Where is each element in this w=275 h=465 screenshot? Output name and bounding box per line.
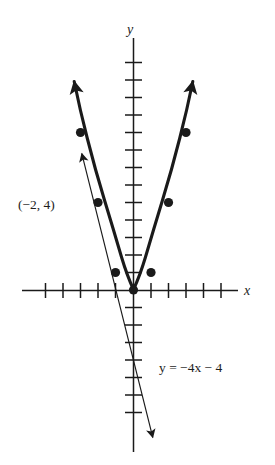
point-label: (−2, 4) [18,197,55,212]
coordinate-graph-svg: y x (−2, 4) y = −4x − 4 [0,0,275,465]
data-point [146,268,155,277]
line-equation-label: y = −4x − 4 [159,360,223,375]
x-axis-label: x [243,283,251,298]
data-point [164,198,173,207]
data-point [129,285,138,294]
y-axis-label: y [125,22,134,37]
data-point [93,198,102,207]
data-point [111,268,120,277]
data-point [76,128,85,137]
data-point [181,128,190,137]
graph-figure: y x (−2, 4) y = −4x − 4 [0,0,275,465]
axes-group [22,38,238,452]
tangent-line-curve [82,154,153,438]
